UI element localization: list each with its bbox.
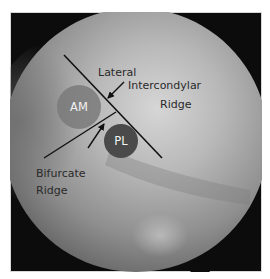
scope-notch [190, 259, 210, 272]
intercondylar-label: Intercondylar [128, 79, 202, 92]
ridge-label-bottom: Ridge [36, 184, 68, 197]
lateral-label: Lateral [98, 66, 136, 79]
ridge-label-top: Ridge [160, 98, 192, 111]
arthroscopy-figure: Lateral Intercondylar Ridge Bifurcate Ri… [0, 0, 270, 279]
pl-label: PL [114, 134, 128, 148]
am-label: AM [70, 100, 88, 114]
annotated-scene: Lateral Intercondylar Ridge Bifurcate Ri… [0, 0, 270, 279]
bifurcate-label: Bifurcate [36, 167, 86, 180]
